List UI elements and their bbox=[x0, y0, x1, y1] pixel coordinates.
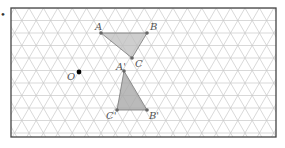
rotation-center-point bbox=[77, 70, 82, 75]
grid-line bbox=[15, 0, 245, 148]
grid-line bbox=[29, 0, 259, 148]
grid-line bbox=[0, 0, 230, 148]
vertex-label: C bbox=[135, 58, 143, 69]
vertex-label: A' bbox=[115, 61, 126, 72]
grid-line bbox=[101, 0, 285, 148]
vertex-label: B' bbox=[148, 110, 159, 121]
grid-line bbox=[173, 0, 285, 148]
grid-line bbox=[0, 0, 216, 148]
grid-line bbox=[0, 0, 230, 148]
grid-line bbox=[0, 0, 15, 148]
grid-line bbox=[159, 0, 285, 148]
grid-line bbox=[0, 0, 58, 148]
grid-line bbox=[0, 0, 15, 148]
triangle-a-prime-b-prime-c-prime bbox=[117, 71, 147, 110]
grid-line bbox=[202, 0, 285, 148]
bullet-marker: • bbox=[0, 9, 6, 20]
grid-line bbox=[0, 0, 58, 148]
grid-line bbox=[0, 0, 101, 148]
grid-line bbox=[202, 0, 285, 148]
vertex-label: A bbox=[94, 21, 102, 32]
grid-line bbox=[0, 0, 187, 148]
vertex-label: B bbox=[149, 21, 157, 32]
grid-line bbox=[15, 0, 245, 148]
grid-line bbox=[87, 0, 285, 148]
rotation-center-label: O bbox=[67, 71, 75, 82]
grid-line bbox=[29, 0, 259, 148]
grid-line bbox=[187, 0, 285, 148]
vertex-point bbox=[145, 31, 149, 35]
grid-line bbox=[101, 0, 285, 148]
triangular-grid bbox=[0, 0, 285, 148]
grid-line bbox=[159, 0, 285, 148]
diagram-canvas: • ABCA'B'C' O bbox=[0, 0, 285, 148]
grid-line bbox=[187, 0, 285, 148]
grid-line bbox=[0, 0, 187, 148]
grid-line bbox=[0, 0, 216, 148]
grid-line bbox=[115, 0, 285, 148]
vertex-label: C' bbox=[106, 110, 116, 121]
vertex-point bbox=[130, 56, 134, 60]
grid-line bbox=[115, 0, 285, 148]
grid-line bbox=[0, 0, 101, 148]
grid-line bbox=[0, 0, 173, 148]
grid-line bbox=[173, 0, 285, 148]
grid-line bbox=[0, 0, 173, 148]
